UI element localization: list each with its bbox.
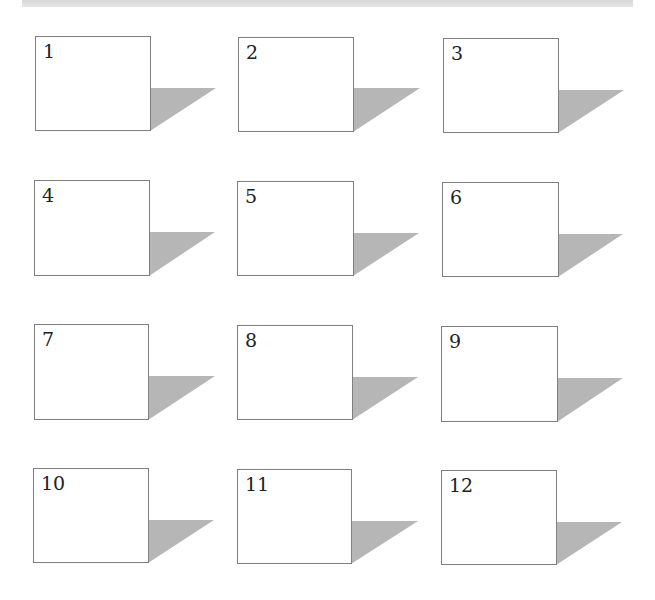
box-number-label: 5 bbox=[245, 185, 257, 207]
numbered-box-8: 8 bbox=[237, 325, 353, 420]
box-shadow bbox=[351, 521, 418, 564]
numbered-box-10: 10 bbox=[33, 468, 149, 563]
box-number-label: 2 bbox=[246, 41, 258, 63]
numbered-box-5: 5 bbox=[237, 181, 354, 276]
numbered-box-2: 2 bbox=[238, 37, 354, 132]
numbered-box-9: 9 bbox=[441, 326, 558, 422]
box-number-label: 7 bbox=[42, 328, 54, 350]
box-number-label: 4 bbox=[42, 184, 54, 206]
box-shadow bbox=[558, 90, 624, 133]
numbered-box-12: 12 bbox=[441, 470, 557, 565]
numbered-box-3: 3 bbox=[443, 38, 559, 133]
numbered-box-6: 6 bbox=[442, 182, 559, 277]
numbered-box-1: 1 bbox=[35, 36, 151, 131]
box-number-label: 10 bbox=[41, 472, 65, 494]
box-shadow bbox=[558, 234, 623, 277]
box-number-label: 6 bbox=[450, 186, 462, 208]
numbered-box-4: 4 bbox=[34, 180, 150, 276]
box-shadow bbox=[149, 232, 215, 276]
box-number-label: 8 bbox=[245, 329, 257, 351]
box-number-label: 9 bbox=[449, 330, 461, 352]
box-shadow bbox=[148, 376, 215, 420]
box-shadow bbox=[148, 520, 214, 563]
box-shadow bbox=[150, 88, 216, 131]
box-number-label: 3 bbox=[451, 42, 463, 64]
box-shadow bbox=[353, 233, 419, 276]
numbered-box-7: 7 bbox=[34, 324, 149, 420]
box-number-label: 11 bbox=[245, 473, 269, 495]
numbered-box-11: 11 bbox=[237, 469, 352, 564]
box-shadow bbox=[556, 522, 622, 565]
box-shadow bbox=[557, 378, 623, 422]
box-shadow bbox=[352, 377, 418, 420]
box-number-label: 1 bbox=[43, 40, 55, 62]
box-number-label: 12 bbox=[449, 474, 473, 496]
top-gray-band bbox=[22, 0, 633, 7]
box-shadow bbox=[353, 88, 420, 132]
